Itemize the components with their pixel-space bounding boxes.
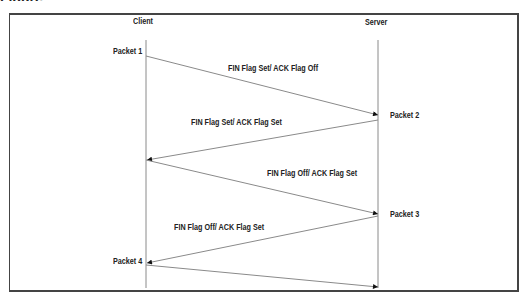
packet-3-flags: FIN Flag Off/ ACK Flag Set — [267, 168, 357, 178]
server-label: Server — [365, 17, 387, 27]
packet-2-flags: FIN Flag Set/ ACK Flag Set — [191, 117, 282, 127]
arrow-final — [146, 265, 378, 287]
packet-3-label: Packet 3 — [390, 209, 419, 219]
packet-1-flags: FIN Flag Set/ ACK Flag Off — [228, 63, 318, 73]
packet-4-flags: FIN Flag Off/ ACK Flag Set — [174, 222, 264, 232]
packet-4-label: Packet 4 — [113, 256, 142, 266]
client-label: Client — [133, 16, 153, 26]
packet-1-label: Packet 1 — [113, 46, 142, 56]
packet-2-label: Packet 2 — [390, 110, 419, 120]
sequence-diagram — [0, 0, 528, 298]
